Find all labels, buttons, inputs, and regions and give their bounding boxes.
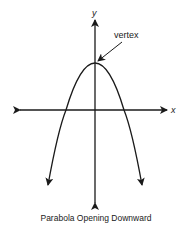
caption: Parabola Opening Downward [40,213,151,223]
y-axis-label: y [91,8,97,18]
parabola-diagram: y x vertex Parabola Opening Downward [0,0,193,229]
vertex-pointer-arrow [98,42,122,61]
x-axis-label: x [170,105,176,115]
vertex-label: vertex [114,30,139,40]
